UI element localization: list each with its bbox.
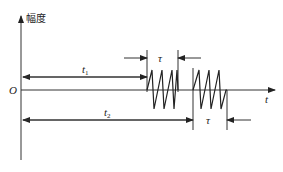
tau-1-label: τ <box>158 52 163 64</box>
t2-label: t2 <box>104 106 111 120</box>
x-axis-label: t <box>265 93 269 105</box>
pulse-timing-diagram: 幅度 t O t1 t2 τ τ <box>0 0 283 172</box>
y-axis-label: 幅度 <box>26 12 46 24</box>
origin-label: O <box>9 84 17 96</box>
t1-label: t1 <box>82 63 89 77</box>
pulse-burst-2 <box>193 68 227 130</box>
pulse-burst-1 <box>147 50 178 109</box>
tau-2-label: τ <box>206 114 211 126</box>
